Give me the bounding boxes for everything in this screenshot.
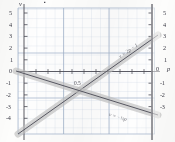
x-axis-label: p: [167, 66, 170, 72]
left-tick-neg1: -1: [6, 80, 11, 86]
left-tick-neg4: -4: [6, 115, 11, 121]
right-tick-5: 5: [163, 10, 166, 16]
graph-figure: 5 4 3 2 1 0 -1 -2 -3 -4 5 4 3 2 1 0 -1 -…: [0, 0, 175, 142]
left-tick-3: 3: [9, 33, 12, 39]
left-tick-2: 2: [9, 45, 12, 51]
coordinate-plot: [0, 0, 175, 142]
right-tick-2: 2: [163, 45, 166, 51]
right-tick-1: 1: [164, 57, 167, 63]
right-tick-0: 0: [156, 66, 159, 72]
left-tick-0: 0: [9, 68, 12, 74]
right-tick-neg2: -2: [160, 92, 165, 98]
intersection-label: 0.5: [74, 81, 81, 86]
y-axis-label: v: [19, 1, 22, 7]
right-tick-neg3: -3: [160, 104, 165, 110]
left-tick-5: 5: [9, 10, 12, 16]
top-tick-mark: ▪: [44, 0, 46, 5]
minor-gridlines: [18, 8, 155, 134]
left-tick-neg2: -2: [6, 92, 11, 98]
left-tick-1: 1: [10, 57, 13, 63]
right-tick-4: 4: [163, 22, 166, 28]
right-tick-3: 3: [163, 33, 166, 39]
left-tick-4: 4: [9, 22, 12, 28]
right-tick-neg1: -1: [160, 80, 165, 86]
left-tick-neg3: -3: [6, 104, 11, 110]
